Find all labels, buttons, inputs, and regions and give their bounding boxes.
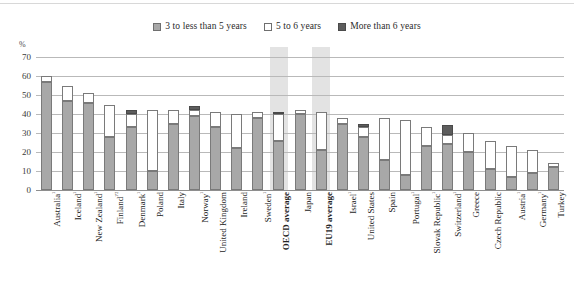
x-tick-label: Portugal¹ — [409, 192, 421, 224]
bar-column[interactable] — [126, 57, 137, 190]
bar-segment — [442, 135, 453, 145]
x-tick-label: OECD average — [282, 192, 291, 250]
bar-column[interactable] — [548, 57, 559, 190]
y-tick-label-0: 0 — [9, 186, 31, 195]
legend-item-0[interactable]: 3 to less than 5 years — [153, 21, 247, 32]
bar-column[interactable] — [463, 57, 474, 190]
bar-segment — [506, 177, 517, 190]
bar-segment — [231, 148, 242, 190]
y-tick-label-50: 50 — [9, 91, 31, 100]
y-tick-label-30: 30 — [9, 129, 31, 138]
axis-unit-label: % — [19, 40, 26, 49]
bar-segment — [252, 118, 263, 190]
bar-segment — [295, 114, 306, 190]
bar-segment — [83, 93, 94, 103]
x-tick-label: Italy — [177, 192, 186, 209]
bar-column[interactable] — [41, 57, 52, 190]
bar-column[interactable] — [527, 57, 538, 190]
bar-segment — [189, 110, 200, 116]
bar-segment — [252, 112, 263, 118]
bar-segment — [527, 173, 538, 190]
bar-segment — [421, 127, 432, 146]
bar-segment — [104, 105, 115, 137]
bar-column[interactable] — [231, 57, 242, 190]
bar-column[interactable] — [379, 57, 390, 190]
top-divider — [0, 3, 574, 4]
bar-column[interactable] — [295, 57, 306, 190]
bar-segment — [126, 110, 137, 114]
bar-segment — [231, 114, 242, 148]
legend-label-2: More than 6 years — [350, 21, 421, 32]
bar-segment — [485, 169, 496, 190]
bar-segment — [400, 175, 411, 190]
x-tick-label: Iceland¹ — [71, 192, 83, 220]
bar-segment — [41, 82, 52, 190]
bar-segment — [379, 160, 390, 190]
y-tick-label-40: 40 — [9, 110, 31, 119]
bar-segment — [62, 86, 73, 101]
bar-column[interactable] — [316, 57, 327, 190]
bar-column[interactable] — [252, 57, 263, 190]
bar-column[interactable] — [83, 57, 94, 190]
bar-segment — [337, 124, 348, 191]
legend-label-0: 3 to less than 5 years — [165, 21, 247, 32]
bar-column[interactable] — [168, 57, 179, 190]
bar-column[interactable] — [442, 57, 453, 190]
bar-segment — [147, 171, 158, 190]
x-tick-label: Sweden¹ — [261, 192, 273, 222]
legend-label-1: 5 to 6 years — [276, 21, 321, 32]
bar-segment — [358, 124, 369, 128]
bar-segment — [273, 114, 284, 141]
x-tick-label: New Zealand¹ — [92, 192, 104, 242]
x-tick-label: Finland¹'² — [113, 192, 125, 224]
x-tick-label: Australia¹ — [50, 192, 62, 227]
bar-column[interactable] — [506, 57, 517, 190]
bar-series-container — [36, 57, 564, 190]
bar-segment — [104, 137, 115, 190]
bar-segment — [442, 125, 453, 135]
bar-column[interactable] — [485, 57, 496, 190]
legend-item-2[interactable]: More than 6 years — [338, 21, 421, 32]
plot-area: 706050403020100 — [36, 57, 564, 190]
bar-segment — [548, 167, 559, 190]
bar-segment — [273, 141, 284, 190]
x-tick-label: EU19 average — [325, 192, 334, 246]
bar-segment — [337, 118, 348, 124]
bar-segment — [421, 146, 432, 190]
x-tick-label: Switzerland¹ — [451, 192, 463, 237]
bar-segment — [168, 110, 179, 123]
bar-segment — [463, 133, 474, 152]
x-tick-label: Greece — [472, 192, 481, 217]
bar-column[interactable] — [147, 57, 158, 190]
bar-segment — [295, 110, 306, 114]
legend-item-1[interactable]: 5 to 6 years — [264, 21, 321, 32]
legend-swatch-dark-icon — [338, 23, 346, 31]
x-tick-label: United States — [367, 192, 376, 240]
bar-column[interactable] — [104, 57, 115, 190]
bar-column[interactable] — [421, 57, 432, 190]
x-tick-label: Poland — [156, 192, 165, 217]
bar-segment — [210, 112, 221, 127]
x-axis-labels: Australia¹Iceland¹New Zealand¹Finland¹'²… — [36, 192, 564, 292]
bar-segment — [41, 76, 52, 82]
y-tick-label-10: 10 — [9, 167, 31, 176]
bar-column[interactable] — [337, 57, 348, 190]
x-tick-label: Germany¹ — [536, 192, 548, 227]
bar-column[interactable] — [358, 57, 369, 190]
bar-segment — [316, 150, 327, 190]
x-tick-label: Denmark¹ — [135, 192, 147, 227]
x-tick-label: Ireland — [240, 192, 249, 217]
bar-column[interactable] — [62, 57, 73, 190]
y-tick-label-60: 60 — [9, 72, 31, 81]
bar-column[interactable] — [273, 57, 284, 190]
bar-segment — [379, 118, 390, 160]
bar-column[interactable] — [400, 57, 411, 190]
bar-segment — [400, 120, 411, 175]
bar-segment — [83, 103, 94, 190]
bar-column[interactable] — [210, 57, 221, 190]
bar-segment — [506, 146, 517, 176]
bar-segment — [316, 112, 327, 150]
bar-column[interactable] — [189, 57, 200, 190]
legend-swatch-white-icon — [264, 23, 272, 31]
bar-segment — [358, 127, 369, 137]
